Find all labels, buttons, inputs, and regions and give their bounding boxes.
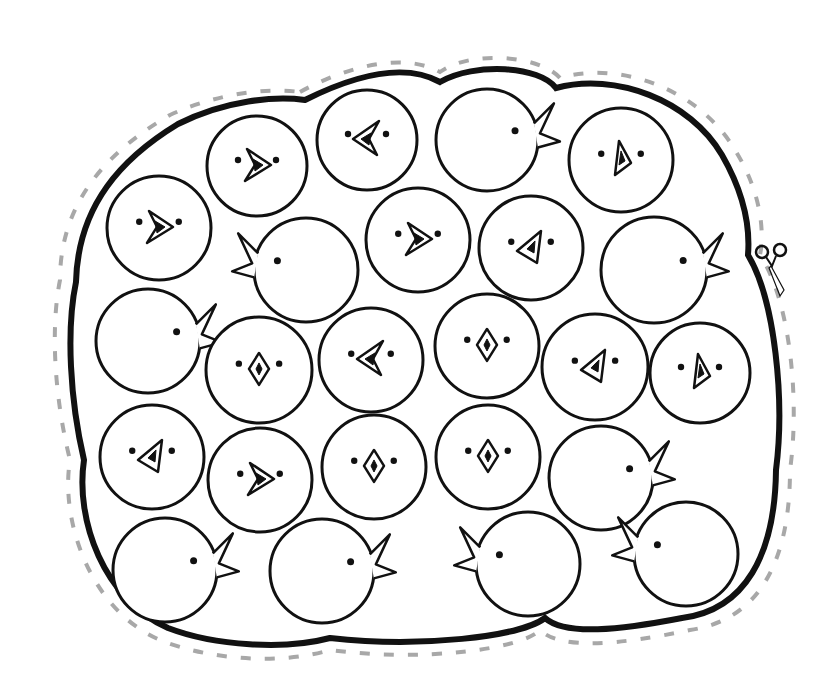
eye-right	[391, 458, 397, 464]
chick-11	[206, 317, 312, 423]
chick-8	[479, 196, 583, 300]
chick-18	[322, 415, 426, 519]
open-beak	[370, 534, 396, 578]
eye-right	[638, 151, 644, 157]
chick-14	[542, 314, 648, 420]
eye-right	[504, 337, 510, 343]
eye-right	[548, 239, 554, 245]
eye-left	[348, 351, 354, 357]
chick-10	[96, 289, 222, 393]
eye-left	[236, 360, 242, 366]
chick-4	[569, 108, 673, 212]
chick-9	[601, 217, 729, 323]
eye-right	[612, 357, 618, 363]
eye-right	[273, 157, 279, 163]
eye	[512, 127, 519, 134]
chick-15	[650, 323, 750, 423]
eye	[680, 257, 687, 264]
eye-right	[716, 364, 722, 370]
eye-right	[176, 219, 182, 225]
eye-right	[505, 448, 511, 454]
chick-5	[107, 176, 211, 280]
chick-17	[208, 428, 312, 532]
eye-right	[383, 131, 389, 137]
chick-21	[113, 518, 239, 622]
eye	[173, 328, 180, 335]
eye-left	[678, 364, 684, 370]
eye-left	[235, 157, 241, 163]
eye-left	[465, 448, 471, 454]
open-beak	[534, 103, 560, 147]
chick-2	[317, 90, 417, 190]
chick-body	[436, 89, 538, 191]
eye-left	[237, 471, 243, 477]
eye-left	[129, 448, 135, 454]
eye-right	[435, 231, 441, 237]
chick-1	[207, 116, 307, 216]
chick-22	[270, 519, 396, 623]
eye-left	[508, 239, 514, 245]
open-beak	[454, 527, 480, 571]
eye-left	[395, 231, 401, 237]
eye	[626, 465, 633, 472]
chick-body	[634, 502, 738, 606]
eye	[654, 541, 661, 548]
eye	[274, 257, 281, 264]
chick-body	[270, 519, 374, 623]
chick-23	[454, 512, 580, 616]
eye-left	[572, 357, 578, 363]
chick-19	[436, 405, 540, 509]
eye-left	[598, 151, 604, 157]
eye	[347, 558, 354, 565]
chick-16	[100, 405, 204, 509]
chick-body	[601, 217, 707, 323]
chick-body	[254, 218, 358, 322]
eye-right	[388, 351, 394, 357]
open-beak	[649, 441, 675, 485]
chick-cutout-illustration	[0, 0, 837, 688]
open-beak	[703, 233, 729, 277]
eye	[496, 551, 503, 558]
eye	[190, 557, 197, 564]
chick-body	[476, 512, 580, 616]
chick-7	[366, 188, 470, 292]
chick-body	[549, 426, 653, 530]
eye-left	[464, 337, 470, 343]
eye-right	[276, 360, 282, 366]
chick-body	[96, 289, 200, 393]
chick-body	[113, 518, 217, 622]
chick-6	[232, 218, 358, 322]
open-beak	[232, 233, 258, 277]
eye-left	[136, 219, 142, 225]
chick-12	[319, 308, 423, 412]
coloring-sheet	[0, 0, 837, 688]
eye-left	[351, 458, 357, 464]
open-beak	[213, 533, 239, 577]
eye-right	[277, 471, 283, 477]
eye-left	[345, 131, 351, 137]
eye-right	[169, 448, 175, 454]
chick-3	[436, 89, 560, 191]
chick-13	[435, 294, 539, 398]
